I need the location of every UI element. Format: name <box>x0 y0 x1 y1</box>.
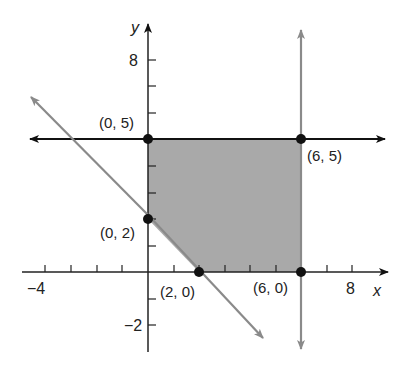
y-ticks <box>148 60 156 325</box>
point-0-5 <box>143 134 153 144</box>
tick-label-y-neg2: −2 <box>124 318 142 334</box>
tick-label-y-8: 8 <box>129 53 138 69</box>
point-6-5 <box>296 134 306 144</box>
point-label-0-5: (0, 5) <box>99 115 134 130</box>
y-axis-label: y <box>131 20 139 36</box>
tick-label-x-8: 8 <box>346 281 355 297</box>
point-label-6-5: (6, 5) <box>307 148 342 163</box>
point-label-2-0: (2, 0) <box>160 284 195 299</box>
point-0-2 <box>143 214 153 224</box>
shaded-region <box>148 139 301 272</box>
point-label-0-2: (0, 2) <box>100 225 135 240</box>
graph-canvas <box>0 0 405 366</box>
tick-label-x-neg4: −4 <box>27 281 45 297</box>
point-6-0 <box>296 267 306 277</box>
x-axis-label: x <box>373 283 381 299</box>
point-2-0 <box>194 267 204 277</box>
point-label-6-0: (6, 0) <box>253 280 288 295</box>
